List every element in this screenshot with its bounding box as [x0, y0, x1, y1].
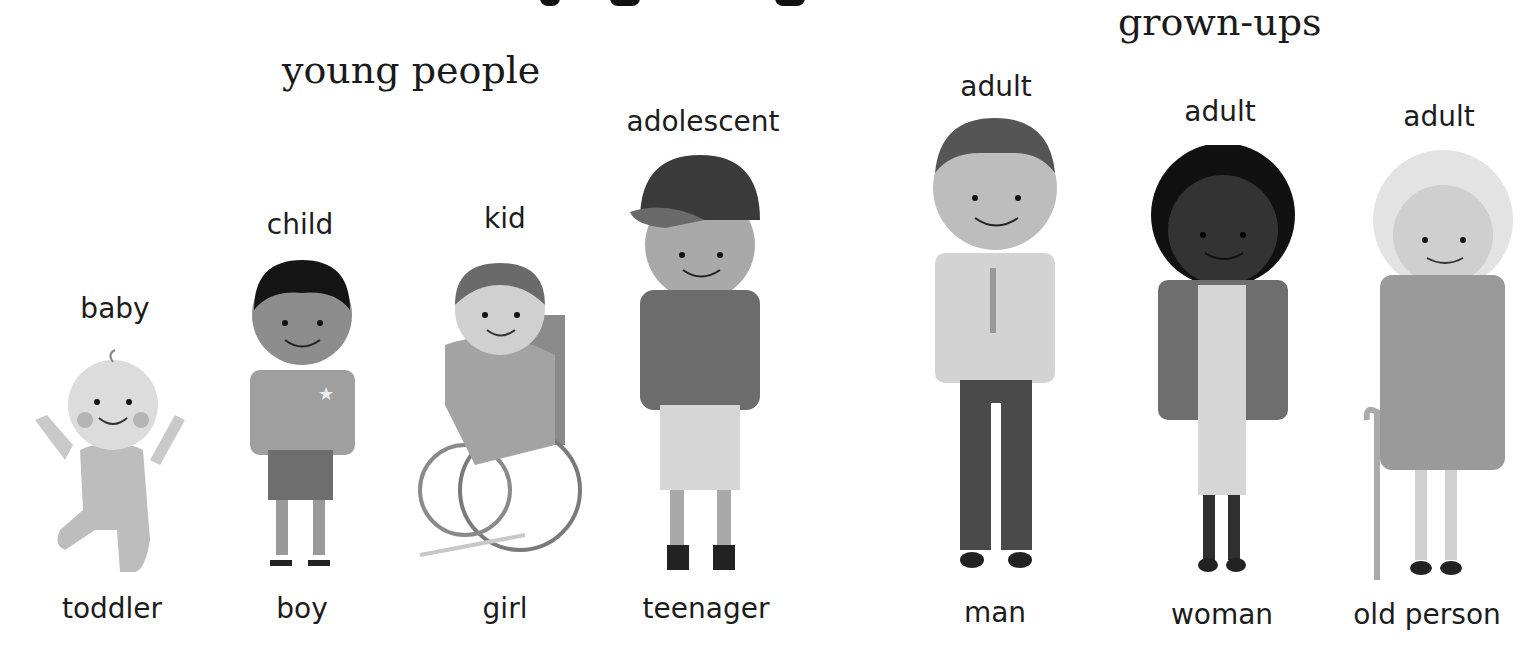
cropped-title-fragment [775, 0, 805, 6]
heading-young-people: young people [282, 48, 540, 92]
cropped-title-fragment [540, 0, 560, 6]
cropped-title-fragment [610, 0, 640, 6]
man-illustration [920, 118, 1070, 573]
svg-text:★: ★ [318, 383, 334, 404]
label-adolescent: adolescent [626, 105, 779, 138]
label-adult-old: adult [1403, 100, 1474, 133]
boy-illustration: ★ [240, 255, 365, 570]
label-girl: girl [483, 592, 528, 625]
label-child: child [267, 208, 333, 241]
label-woman: woman [1171, 598, 1273, 631]
heading-grown-ups: grown-ups [1118, 0, 1322, 44]
girl-wheelchair-illustration [405, 255, 595, 565]
label-kid: kid [484, 202, 526, 235]
label-adult-man: adult [960, 70, 1031, 103]
label-teenager: teenager [643, 592, 770, 625]
label-adult-woman: adult [1184, 95, 1255, 128]
teenager-illustration [625, 150, 775, 575]
baby-illustration [25, 340, 190, 580]
label-old-person: old person [1353, 598, 1501, 631]
label-toddler: toddler [62, 592, 162, 625]
label-man: man [964, 596, 1026, 629]
old-person-illustration [1355, 150, 1525, 585]
label-boy: boy [276, 592, 327, 625]
woman-illustration [1148, 145, 1298, 575]
label-baby: baby [80, 292, 149, 325]
